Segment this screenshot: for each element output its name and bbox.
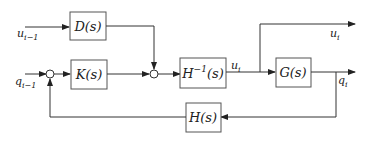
block-g-label: G(s) — [279, 65, 306, 80]
block-h-label: H(s) — [188, 110, 217, 125]
block-d-label: D(s) — [73, 19, 101, 34]
block-k-label: K(s) — [75, 67, 103, 82]
q-out-label: qi — [338, 74, 348, 89]
h-to-sum1-arrow — [50, 79, 186, 117]
block-diagram: ui−1 D(s) qi−1 K(s) H−1(s) ui ui G(s) qi… — [0, 0, 369, 142]
summing-junction-2 — [150, 70, 158, 78]
d-to-sum2-arrow — [106, 26, 154, 69]
q-prev-label: qi−1 — [15, 75, 36, 90]
summing-junction-1 — [46, 70, 54, 78]
u-prev-label: ui−1 — [17, 27, 38, 42]
u-out-label: ui — [330, 27, 340, 42]
